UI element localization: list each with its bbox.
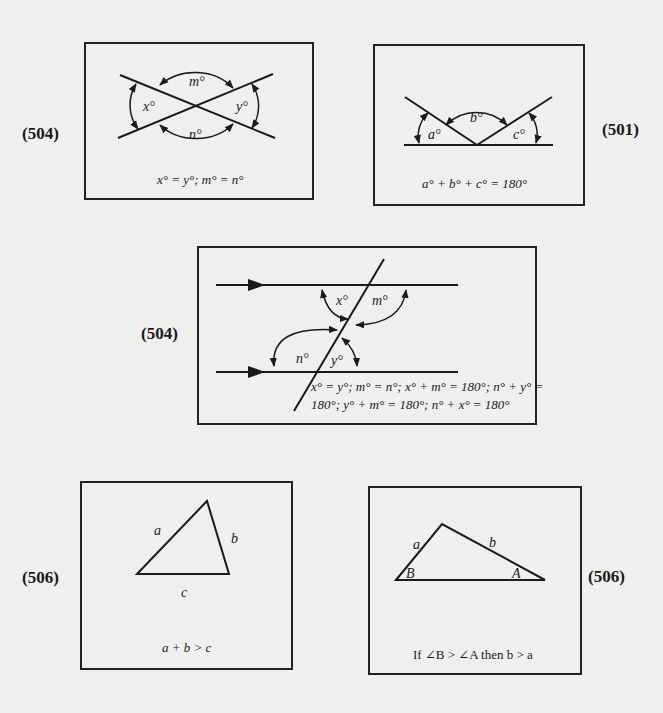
arc-x bbox=[130, 84, 138, 129]
label-m: m° bbox=[189, 74, 205, 89]
parallel-arrow-top-icon bbox=[248, 279, 265, 291]
label-n: n° bbox=[189, 127, 202, 142]
diagram-5-triangle bbox=[396, 524, 545, 580]
label-y: y° bbox=[234, 99, 248, 114]
diagram-canvas: m° n° x° y° b° a° c° x° m° n° y° a b c bbox=[0, 0, 663, 713]
arc-c bbox=[529, 113, 537, 143]
triangle-ab bbox=[396, 524, 545, 580]
label-b: b° bbox=[470, 110, 483, 125]
label-a: a bbox=[413, 537, 420, 552]
label-c: c bbox=[181, 585, 188, 600]
diagram-4-caption: a + b > c bbox=[162, 640, 211, 656]
label-x: x° bbox=[335, 293, 348, 308]
arc-a bbox=[418, 113, 428, 143]
label-x: x° bbox=[142, 99, 155, 114]
diagram-2-caption: a° + b° + c° = 180° bbox=[422, 176, 527, 192]
label-a: a° bbox=[428, 127, 441, 142]
label-n: n° bbox=[296, 351, 309, 366]
parallel-arrow-bottom-icon bbox=[248, 366, 265, 378]
arc-y bbox=[342, 338, 357, 366]
diagram-4-triangle bbox=[137, 501, 229, 574]
label-angle-B: B bbox=[406, 566, 415, 581]
label-b: b bbox=[231, 531, 238, 546]
label-angle-A: A bbox=[511, 566, 521, 581]
diagram-1-caption: x° = y°; m° = n° bbox=[157, 172, 243, 188]
diagram-3-caption-line1: x° = y°; m° = n°; x° + m° = 180°; n° + y… bbox=[311, 379, 543, 395]
diagram-5-caption: If ∠B > ∠A then b > a bbox=[413, 647, 533, 663]
label-b: b bbox=[489, 535, 496, 550]
diagram-3-caption-line2: 180°; y° + m° = 180°; n° + x° = 180° bbox=[311, 397, 510, 413]
label-y: y° bbox=[329, 353, 343, 368]
label-c: c° bbox=[513, 127, 525, 142]
triangle-abc bbox=[137, 501, 229, 574]
arc-y bbox=[252, 84, 259, 128]
label-a: a bbox=[154, 523, 161, 538]
label-m: m° bbox=[372, 293, 388, 308]
left-ray bbox=[405, 97, 477, 145]
